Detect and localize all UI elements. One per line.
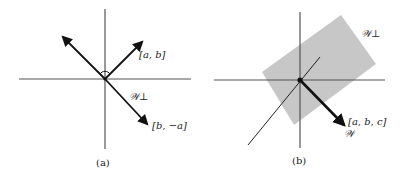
vector-neg-b-a (63, 37, 105, 79)
caption-a: (a) (96, 157, 110, 168)
origin-b (297, 77, 302, 82)
label-vector-a-b: [a, b] (139, 49, 166, 60)
caption-b: (b) (292, 155, 306, 166)
panel-a: [a, b] 𝒲⊥ [b, −a] (a) (19, 9, 191, 168)
origin-a (103, 77, 106, 80)
plane-w-perp (262, 15, 376, 125)
label-w-line: 𝒲 (344, 128, 357, 139)
label-w-perp-b: 𝒲⊥ (361, 28, 380, 39)
label-w-perp-a: 𝒲⊥ (129, 91, 148, 102)
panel-b: 𝒲⊥ [a, b, c] 𝒲 (b) (214, 12, 387, 166)
label-vector-b-neg-a: [b, −a] (152, 120, 187, 131)
figure-canvas: [a, b] 𝒲⊥ [b, −a] (a) 𝒲⊥ [a, b, c] 𝒲 (b) (0, 0, 400, 179)
label-vector-a-b-c: [a, b, c] (348, 116, 387, 127)
vector-a-b (105, 42, 142, 79)
